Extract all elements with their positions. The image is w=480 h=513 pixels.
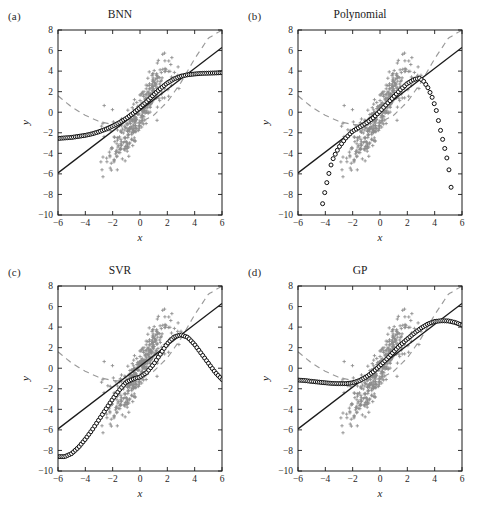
ytick-label: 0 [48, 108, 53, 118]
data-layer-b [298, 30, 462, 206]
scatter-series [99, 51, 182, 178]
x-axis-label: x [377, 231, 383, 243]
ytick-label: 6 [288, 302, 293, 312]
ytick-label: 0 [48, 364, 53, 374]
xtick-label: 6 [220, 218, 225, 228]
ytick-label: −4 [43, 405, 53, 415]
xtick-label: 0 [138, 218, 143, 228]
ytick-label: −8 [43, 446, 53, 456]
xtick-label: −6 [293, 474, 303, 484]
xtick-label: 2 [405, 218, 410, 228]
xtick-label: 6 [460, 218, 465, 228]
ytick-label: 6 [48, 302, 53, 312]
ytick-label: −10 [38, 466, 53, 476]
data-layer-a [56, 30, 224, 178]
xtick-label: 0 [378, 474, 383, 484]
ytick-label: −2 [43, 384, 53, 394]
figure-container: (a)BNN−6−4−2024686420−2−4−6−8−10xy(b)Pol… [0, 0, 480, 513]
ytick-label: 0 [288, 108, 293, 118]
xtick-label: −2 [348, 474, 358, 484]
ytick-label: 4 [288, 66, 293, 76]
ytick-label: 2 [288, 87, 293, 97]
ytick-label: −2 [283, 384, 293, 394]
ytick-label: −2 [43, 128, 53, 138]
y-axis-label: y [259, 120, 271, 126]
plot-area-d: −6−4−2024686420−2−4−6−8−10xy [240, 256, 480, 512]
ytick-label: 8 [288, 281, 293, 291]
ytick-label: −6 [43, 169, 53, 179]
ytick-label: −6 [43, 425, 53, 435]
ytick-label: −6 [283, 169, 293, 179]
data-layer-d [296, 286, 464, 434]
ytick-label: −10 [278, 210, 293, 220]
xtick-label: 0 [378, 218, 383, 228]
ytick-label: 8 [48, 25, 53, 35]
xtick-label: 6 [460, 474, 465, 484]
ytick-label: −8 [43, 190, 53, 200]
xtick-label: 4 [432, 218, 437, 228]
scatter-series [339, 51, 422, 178]
solid-reference-line [58, 303, 222, 428]
xtick-label: −4 [320, 218, 330, 228]
panel-b: (b)Polynomial−6−4−2024686420−2−4−6−8−10x… [240, 0, 480, 256]
ytick-label: −2 [283, 128, 293, 138]
plot-area-b: −6−4−2024686420−2−4−6−8−10xy [240, 0, 480, 256]
xtick-label: −6 [293, 218, 303, 228]
scatter-series [99, 307, 182, 434]
xtick-label: 4 [192, 474, 197, 484]
ytick-label: 0 [288, 364, 293, 374]
xtick-label: −4 [320, 474, 330, 484]
ytick-label: −4 [43, 149, 53, 159]
plot-area-a: −6−4−2024686420−2−4−6−8−10xy [0, 0, 240, 256]
xtick-label: −4 [80, 218, 90, 228]
prediction-series-a [56, 71, 224, 141]
ytick-label: 4 [288, 322, 293, 332]
x-axis-label: x [377, 487, 383, 499]
ytick-label: −8 [283, 446, 293, 456]
panel-c: (c)SVR−6−4−2024686420−2−4−6−8−10xy [0, 256, 240, 512]
ytick-label: 2 [48, 343, 53, 353]
x-axis-label: x [137, 231, 143, 243]
ytick-label: 4 [48, 322, 53, 332]
ytick-label: −4 [283, 149, 293, 159]
x-axis-label: x [137, 487, 143, 499]
xtick-label: 6 [220, 474, 225, 484]
data-layer-c [56, 286, 224, 459]
scatter-series [339, 307, 422, 434]
ytick-label: 8 [288, 25, 293, 35]
y-axis-label: y [19, 376, 31, 382]
xtick-label: 4 [432, 474, 437, 484]
xtick-label: −2 [348, 218, 358, 228]
plot-area-c: −6−4−2024686420−2−4−6−8−10xy [0, 256, 240, 512]
xtick-label: −4 [80, 474, 90, 484]
panel-a: (a)BNN−6−4−2024686420−2−4−6−8−10xy [0, 0, 240, 256]
ytick-label: 4 [48, 66, 53, 76]
xtick-label: 4 [192, 218, 197, 228]
xtick-label: 2 [405, 474, 410, 484]
xtick-label: −6 [53, 218, 63, 228]
ytick-label: 6 [288, 46, 293, 56]
y-axis-label: y [19, 120, 31, 126]
xtick-label: −2 [108, 218, 118, 228]
xtick-label: −2 [108, 474, 118, 484]
y-axis-label: y [259, 376, 271, 382]
ytick-label: 6 [48, 46, 53, 56]
xtick-label: 2 [165, 218, 170, 228]
xtick-label: −6 [53, 474, 63, 484]
xtick-label: 0 [138, 474, 143, 484]
ytick-label: −8 [283, 190, 293, 200]
panel-d: (d)GP−6−4−2024686420−2−4−6−8−10xy [240, 256, 480, 512]
xtick-label: 2 [165, 474, 170, 484]
ytick-label: −4 [283, 405, 293, 415]
ytick-label: 2 [288, 343, 293, 353]
ytick-label: −10 [278, 466, 293, 476]
ytick-label: 8 [48, 281, 53, 291]
ytick-label: −10 [38, 210, 53, 220]
ytick-label: 2 [48, 87, 53, 97]
ytick-label: −6 [283, 425, 293, 435]
